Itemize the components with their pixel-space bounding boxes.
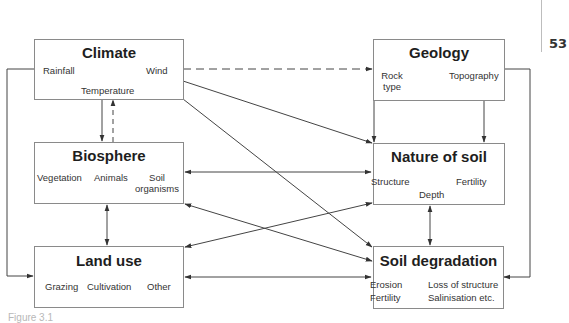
- degradation-loss-of-structure: Loss of structure: [428, 279, 498, 290]
- geology-topography: Topography: [449, 70, 499, 81]
- biosphere-animals: Animals: [94, 172, 128, 183]
- biosphere-soil-organisms: Soil organisms: [133, 172, 181, 194]
- node-title: Geology: [374, 44, 504, 61]
- node-land-use: Land use Grazing Cultivation Other: [34, 246, 184, 308]
- climate-rainfall: Rainfall: [43, 65, 75, 76]
- node-climate: Climate Rainfall Wind Temperature: [34, 39, 184, 100]
- degradation-salinisation: Salinisation etc.: [428, 292, 495, 303]
- biosphere-vegetation: Vegetation: [37, 172, 82, 183]
- nature-depth: Depth: [419, 189, 444, 200]
- landuse-other: Other: [147, 281, 171, 292]
- landuse-grazing: Grazing: [45, 281, 78, 292]
- edge-climate-landuse: [7, 69, 34, 276]
- nature-structure: Structure: [371, 176, 410, 187]
- geology-rock-type: Rock type: [374, 70, 410, 92]
- node-soil-degradation: Soil degradation Erosion Loss of structu…: [373, 246, 504, 309]
- node-geology: Geology Rock type Topography: [373, 39, 505, 101]
- edge-climate-natureofsoil: [183, 81, 372, 143]
- edge-geology-soildegradation: [504, 69, 530, 277]
- node-biosphere: Biosphere Vegetation Animals Soil organi…: [34, 142, 184, 204]
- climate-wind: Wind: [146, 65, 168, 76]
- nature-fertility: Fertility: [456, 176, 487, 187]
- degradation-erosion: Erosion: [370, 279, 402, 290]
- landuse-cultivation: Cultivation: [87, 281, 131, 292]
- node-title: Biosphere: [35, 147, 183, 164]
- node-title: Soil degradation: [374, 252, 503, 269]
- node-title: Land use: [35, 252, 183, 269]
- degradation-fertility: Fertility: [370, 292, 401, 303]
- edge-biosphere-soildegradation: [185, 204, 372, 261]
- figure-caption: Figure 3.1: [8, 312, 53, 323]
- node-title: Nature of soil: [374, 148, 504, 165]
- node-title: Climate: [35, 44, 183, 61]
- node-nature-of-soil: Nature of soil Structure Fertility Depth: [373, 143, 505, 205]
- climate-temperature: Temperature: [81, 85, 134, 96]
